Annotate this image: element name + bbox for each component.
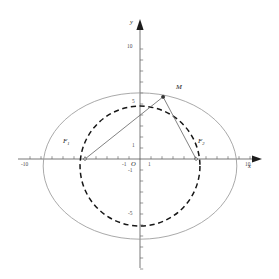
x-tick-label-neg10: -10: [21, 162, 28, 167]
x-tick-label-10: 10: [245, 162, 250, 167]
point-F2: [195, 158, 198, 161]
x-axis-arrow: [252, 155, 262, 162]
y-axis-arrow: [136, 19, 143, 30]
f2-subscript: 2: [202, 141, 204, 146]
y-axis-label: y: [130, 19, 133, 26]
plotted-points-group: [84, 95, 198, 160]
segment-M-F2: [163, 97, 196, 159]
segment-F1-M: [85, 97, 163, 159]
point-label-f2: F2: [198, 138, 205, 147]
y-tick-label-5: 5: [132, 99, 135, 104]
point-label-f1: F1: [63, 138, 70, 147]
point-M: [162, 95, 165, 98]
x-tick-label-1: 1: [148, 162, 151, 167]
point-label-m: M: [176, 84, 182, 91]
y-tick-label-1: 1: [132, 143, 135, 148]
y-tick-label-neg1: -1: [128, 168, 133, 173]
x-tick-label-neg1: -1: [122, 162, 127, 167]
f1-subscript: 1: [67, 141, 69, 146]
coordinate-plane-svg: [0, 0, 279, 279]
axes-group: [18, 19, 262, 268]
y-tick-label-neg5: -5: [128, 211, 133, 216]
y-tick-label-10: 10: [127, 44, 132, 49]
point-F1: [84, 158, 87, 161]
math-figure-canvas: x y O -10 10 -1 1 10 5 1 -1 -5 F1 F2 M: [0, 0, 279, 279]
